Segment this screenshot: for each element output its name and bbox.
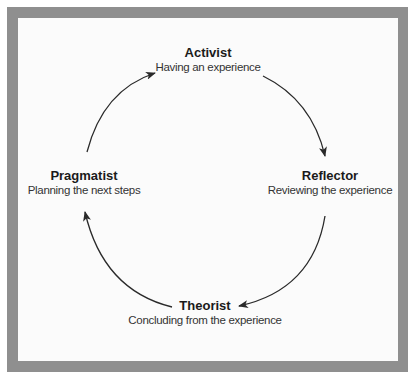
node-subtitle: Planning the next steps <box>28 183 141 198</box>
arrow-pragmatist-to-activist <box>87 73 155 152</box>
arrow-activist-to-reflector <box>263 76 325 156</box>
node-reflector: Reflector Reviewing the experience <box>268 168 393 198</box>
arrow-theorist-to-pragmatist <box>85 212 172 307</box>
node-subtitle: Concluding from the experience <box>128 313 281 328</box>
node-title: Reflector <box>268 168 393 183</box>
node-title: Pragmatist <box>28 168 141 183</box>
node-title: Theorist <box>128 298 281 313</box>
node-subtitle: Having an experience <box>155 60 260 75</box>
node-subtitle: Reviewing the experience <box>268 183 393 198</box>
arrow-reflector-to-theorist <box>239 216 325 306</box>
node-activist: Activist Having an experience <box>155 45 260 75</box>
node-theorist: Theorist Concluding from the experience <box>128 298 281 328</box>
node-pragmatist: Pragmatist Planning the next steps <box>28 168 141 198</box>
node-title: Activist <box>155 45 260 60</box>
